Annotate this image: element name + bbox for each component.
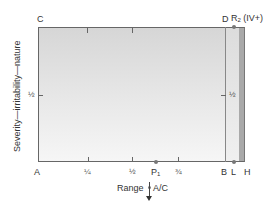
h-label: H xyxy=(244,167,251,177)
y-axis-label: Severity—irritability—nature xyxy=(12,40,22,152)
x-axis-label: Range xyxy=(117,183,144,193)
y-tick-label-right-half: ½ xyxy=(229,90,236,100)
p1-point-dot xyxy=(154,160,158,164)
corner-label-a: A xyxy=(34,167,40,177)
l-point-dot xyxy=(232,160,236,164)
right-tick-half xyxy=(221,95,226,96)
l-label: L xyxy=(231,167,236,177)
x-tick-label-three-quarter: ¾ xyxy=(175,167,182,177)
r2-point-dot xyxy=(232,25,236,29)
corner-label-c: C xyxy=(37,14,44,24)
x-tick-label-quarter: ¼ xyxy=(84,167,91,177)
ac-arrow-line xyxy=(149,182,150,197)
plot-area xyxy=(38,27,226,162)
bottom-tick-three-quarter xyxy=(178,157,179,162)
p1-label: P1 xyxy=(151,167,160,179)
ac-label: A/C xyxy=(153,183,168,193)
r2-label: R2 (IV+) xyxy=(231,13,263,25)
bottom-tick-half xyxy=(132,157,133,162)
top-tick-quarter xyxy=(87,28,88,33)
x-tick-label-half: ½ xyxy=(129,167,136,177)
corner-label-b: B xyxy=(221,167,227,177)
bottom-tick-quarter xyxy=(88,157,89,162)
ac-arrow-down-icon xyxy=(146,196,152,201)
left-tick-half xyxy=(38,95,43,96)
y-tick-label-left-half: ½ xyxy=(28,90,35,100)
top-tick-half xyxy=(132,28,133,33)
corner-label-d: D xyxy=(222,14,229,24)
h-band xyxy=(239,27,245,162)
